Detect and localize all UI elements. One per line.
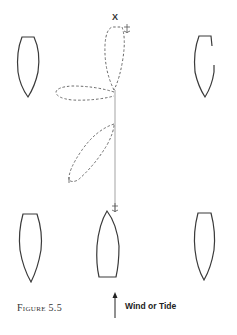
boat-top-left [18,37,39,97]
anchor-bottom-icon [112,203,118,212]
swing-path-left [56,86,114,100]
figure-caption: Figure 5.5 [17,302,62,313]
position-marker-x: X [112,12,118,22]
boat-top-right [195,36,215,97]
arrow-up-icon [113,292,118,318]
anchoring-diagram [0,0,237,335]
swing-path-lower-left [69,124,114,182]
anchor-top-icon [124,24,130,33]
swing-path-up [105,27,124,90]
boat-bottom-left [19,214,41,282]
boat-bottom-center [97,211,119,277]
wind-or-tide-label: Wind or Tide [125,301,176,311]
boat-bottom-right [194,213,214,280]
